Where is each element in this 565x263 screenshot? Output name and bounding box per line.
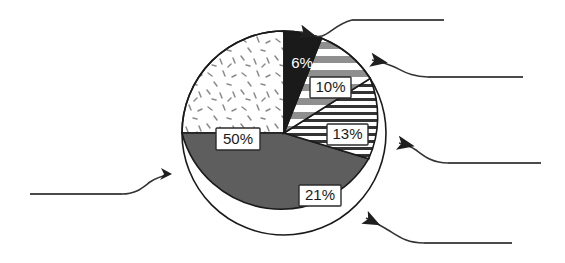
pie-label-13: 13% (327, 124, 368, 145)
callout-50[interactable] (30, 168, 172, 194)
callout-50-arrow-tail (122, 175, 168, 194)
pie-label-13-text: 13% (332, 125, 362, 142)
pie-label-21: 21% (299, 185, 341, 206)
callout-21-arrow (366, 218, 424, 243)
callout-13-arrow (399, 143, 448, 163)
callout-10-arrow (372, 60, 428, 77)
pie-chart-figure: 6% 10% 13% 21% 50% (0, 0, 565, 263)
pie-label-50-text: 50% (223, 130, 253, 147)
callout-6-arrow (301, 20, 352, 37)
callout-13[interactable] (399, 143, 541, 163)
pie-label-10: 10% (310, 77, 351, 98)
pie-label-21-text: 21% (305, 186, 335, 203)
pie-label-10-text: 10% (315, 78, 345, 95)
pie-slice-50[interactable] (182, 31, 284, 133)
callout-10[interactable] (372, 60, 523, 77)
callout-21[interactable] (366, 218, 512, 243)
pie-label-6-text: 6% (291, 54, 313, 71)
pie-slice-50-shape (182, 31, 284, 133)
pie-label-6: 6% (291, 54, 313, 71)
callout-50-arrow-head (160, 168, 172, 180)
pie-label-50: 50% (216, 128, 260, 150)
callout-6[interactable] (301, 20, 444, 37)
